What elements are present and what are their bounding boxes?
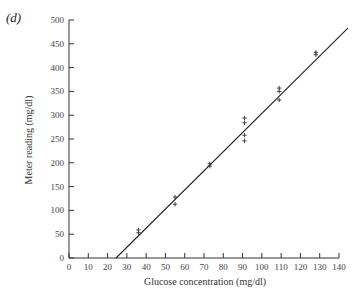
y-tick-label: 250 xyxy=(51,134,65,144)
y-tick-label: 300 xyxy=(51,110,65,120)
x-tick-label: 20 xyxy=(103,262,113,272)
x-tick-label: 140 xyxy=(332,262,346,272)
y-tick-label: 0 xyxy=(60,253,65,263)
y-tick-label: 150 xyxy=(51,182,65,192)
x-tick-label: 130 xyxy=(313,262,327,272)
x-tick-label: 40 xyxy=(142,262,152,272)
y-tick-label: 50 xyxy=(55,229,65,239)
x-tick-label: 70 xyxy=(200,262,210,272)
y-axis-label: Meter reading (mg/dl) xyxy=(23,96,35,185)
y-tick-label: 500 xyxy=(51,15,65,25)
scatter-chart: 0501001502002503003504004505000102030405… xyxy=(0,0,362,296)
data-points xyxy=(136,50,318,235)
plus-marker xyxy=(314,53,318,57)
plus-marker xyxy=(242,139,246,143)
x-tick-label: 30 xyxy=(122,262,132,272)
plus-marker xyxy=(277,89,281,93)
regression-line xyxy=(116,28,348,258)
x-tick-label: 80 xyxy=(219,262,229,272)
y-tick-label: 450 xyxy=(51,39,65,49)
plus-marker xyxy=(173,202,177,206)
plus-marker xyxy=(242,116,246,120)
x-tick-label: 110 xyxy=(275,262,289,272)
x-tick-label: 100 xyxy=(255,262,269,272)
y-tick-label: 350 xyxy=(51,86,65,96)
x-axis-label: Glucose concentration (mg/dl) xyxy=(144,276,266,288)
axes: 0501001502002503003504004505000102030405… xyxy=(51,15,347,272)
x-tick-label: 0 xyxy=(67,262,72,272)
y-tick-label: 100 xyxy=(51,205,65,215)
x-tick-label: 90 xyxy=(238,262,248,272)
x-tick-label: 120 xyxy=(294,262,308,272)
y-tick-label: 400 xyxy=(51,63,65,73)
x-tick-label: 50 xyxy=(161,262,171,272)
x-tick-label: 60 xyxy=(180,262,190,272)
plus-marker xyxy=(242,133,246,137)
plus-marker xyxy=(242,121,246,125)
y-tick-label: 200 xyxy=(51,158,65,168)
plus-marker xyxy=(208,164,212,168)
x-tick-label: 10 xyxy=(84,262,94,272)
